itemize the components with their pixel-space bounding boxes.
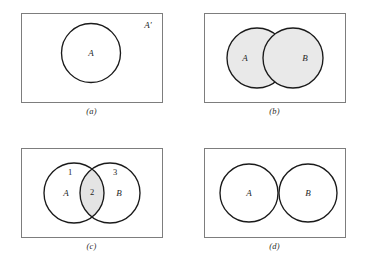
set-label-a: A [62, 188, 69, 198]
set-circle-b [263, 28, 323, 88]
venn-diagram-figure: A A′ (a) A B (b) 1 [0, 0, 366, 270]
panel-caption-a: (a) [0, 106, 183, 116]
universal-set-rect-d [205, 149, 346, 238]
panel-c: 1 2 3 A B (c) [0, 135, 183, 270]
complement-label-a-prime: A′ [143, 20, 152, 30]
set-label-a: A [245, 188, 252, 198]
set-label-b: B [116, 188, 122, 198]
panel-a: A A′ (a) [0, 0, 183, 135]
region-label-1: 1 [68, 167, 72, 177]
set-label-b: B [305, 188, 311, 198]
panel-caption-d: (d) [183, 241, 366, 251]
set-label-a: A [241, 53, 248, 63]
region-label-2: 2 [90, 187, 94, 197]
region-label-3: 3 [113, 167, 117, 177]
panel-b: A B (b) [183, 0, 366, 135]
panel-d: A B (d) [183, 135, 366, 270]
set-label-b: B [302, 53, 308, 63]
set-label-a: A [87, 48, 94, 58]
panel-caption-b: (b) [183, 106, 366, 116]
panel-caption-c: (c) [0, 241, 183, 251]
